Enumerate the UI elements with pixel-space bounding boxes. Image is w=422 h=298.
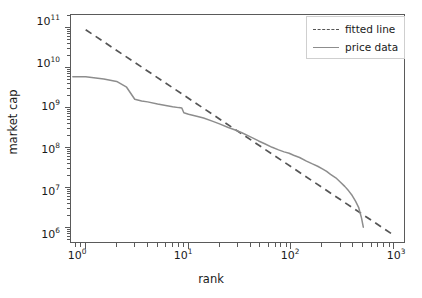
y-tick-exponent: 8	[55, 141, 60, 150]
x-tick-label-1e0: 100	[65, 250, 89, 261]
y-tick-label-1e11: 1011	[8, 16, 60, 27]
y-tick-label-1e10: 1010	[8, 58, 60, 69]
y-tick-exponent: 7	[55, 183, 60, 192]
y-tick-exponent: 10	[51, 55, 60, 64]
series-price-data	[73, 77, 363, 227]
x-axis-title: rank	[0, 272, 422, 286]
legend-item-fitted-line: fitted line	[313, 21, 395, 37]
y-tick-label-1e9: 109	[8, 101, 60, 112]
x-tick-exponent: 3	[401, 247, 406, 256]
y-tick-label-1e7: 107	[8, 186, 60, 197]
y-tick-label-1e6: 106	[8, 229, 60, 240]
y-tick-label-1e8: 108	[8, 144, 60, 155]
solid-line-swatch-icon	[313, 42, 339, 52]
x-tick-label-1e1: 101	[171, 250, 195, 261]
legend-label-price-data: price data	[345, 41, 398, 53]
legend-label-fitted-line: fitted line	[345, 23, 395, 35]
chart-figure: market cap rank 1011 1010 109 108 107 10…	[0, 0, 422, 298]
x-tick-exponent: 0	[82, 247, 87, 256]
dashed-line-swatch-icon	[313, 24, 339, 34]
y-tick-exponent: 9	[55, 98, 60, 107]
x-tick-label-1e2: 102	[278, 250, 302, 261]
y-axis-title: market cap	[6, 62, 20, 182]
chart-legend: fitted line price data	[306, 16, 405, 59]
x-tick-exponent: 2	[295, 247, 300, 256]
x-tick-exponent: 1	[188, 247, 193, 256]
legend-item-price-data: price data	[313, 39, 398, 55]
y-tick-exponent: 11	[51, 13, 60, 22]
y-tick-exponent: 6	[55, 226, 60, 235]
x-tick-label-1e3: 103	[384, 250, 408, 261]
